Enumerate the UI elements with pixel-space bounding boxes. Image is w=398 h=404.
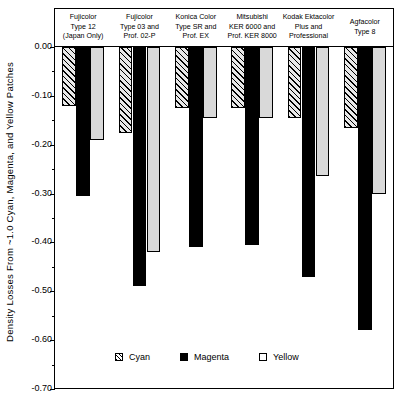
category-header-line: Prof. EX: [183, 32, 209, 41]
y-axis-major-tick: [50, 242, 55, 243]
bar-cyan-6: [344, 47, 358, 128]
bar-group-5: [280, 47, 336, 388]
bar-cyan-1: [62, 47, 76, 106]
bar-yellow-5: [316, 47, 330, 176]
bar-cyan-3: [175, 47, 189, 108]
category-header-line: KER 6000 and: [229, 23, 275, 32]
bar-cyan-5: [288, 47, 302, 118]
legend-item-yellow: Yellow: [259, 352, 299, 362]
bar-group-2: [111, 47, 167, 388]
y-axis-tick-labels: 0.00-0.10-0.20-0.30-0.40-0.50-0.60-0.70: [16, 0, 52, 404]
legend-swatch-magenta-icon: [180, 353, 188, 361]
y-axis-major-tick: [50, 145, 55, 146]
bar-group-4: [224, 47, 280, 388]
category-header-1: FujicolorType 12(Japan Only): [55, 9, 111, 46]
y-axis-major-tick: [50, 389, 55, 390]
y-axis-minor-tick: [52, 267, 55, 268]
category-header-line: Type SR and: [175, 23, 216, 32]
legend-item-magenta: Magenta: [180, 352, 229, 362]
category-header-2: FujicolorType 03 andProf. 02-P: [111, 9, 167, 46]
density-loss-bar-chart: Density Losses From ~1.0 Cyan, Magenta, …: [0, 0, 398, 404]
y-axis-minor-tick: [52, 169, 55, 170]
legend-label-magenta: Magenta: [194, 352, 229, 362]
y-axis-major-tick: [50, 291, 55, 292]
legend-label-yellow: Yellow: [273, 352, 299, 362]
legend-swatch-yellow-icon: [259, 353, 267, 361]
bar-yellow-3: [203, 47, 217, 118]
bar-magenta-2: [133, 47, 147, 286]
category-header-line: Fujicolor: [70, 13, 97, 22]
y-tick-label: -0.60: [16, 335, 52, 344]
category-header-line: Plus and: [295, 23, 323, 32]
y-tick-label: -0.10: [16, 90, 52, 99]
legend-swatch-cyan-icon: [115, 353, 123, 361]
y-tick-label: -0.40: [16, 237, 52, 246]
bar-magenta-3: [189, 47, 203, 247]
y-axis-minor-tick: [52, 218, 55, 219]
bar-yellow-1: [90, 47, 104, 140]
bar-magenta-1: [76, 47, 90, 196]
bar-yellow-2: [147, 47, 161, 252]
bar-magenta-6: [358, 47, 372, 330]
category-header-6: AgfacolorType 8: [337, 9, 393, 46]
bar-yellow-4: [259, 47, 273, 118]
bars-area: [55, 47, 393, 388]
y-tick-label: -0.50: [16, 286, 52, 295]
category-header-4: MitsubishiKER 6000 andProf. KER 8000: [224, 9, 280, 46]
y-axis-minor-tick: [52, 71, 55, 72]
chart-legend: CyanMagentaYellow: [115, 352, 299, 362]
category-header-line: Type 12: [71, 23, 96, 32]
category-header-line: Type 8: [354, 28, 375, 37]
y-tick-label: -0.30: [16, 188, 52, 197]
category-header-line: Fujicolor: [126, 13, 153, 22]
bar-group-1: [55, 47, 111, 388]
y-tick-label: 0.00: [16, 42, 52, 51]
plot-area: FujicolorType 12(Japan Only)FujicolorTyp…: [54, 8, 394, 389]
y-axis-minor-tick: [52, 365, 55, 366]
category-header-line: Prof. 02-P: [124, 32, 156, 41]
category-header-5: Kodak EktacolorPlus andProfessional: [280, 9, 336, 46]
category-header-3: Konica ColorType SR andProf. EX: [168, 9, 224, 46]
legend-label-cyan: Cyan: [129, 352, 150, 362]
y-axis-minor-tick: [52, 120, 55, 121]
y-tick-label: -0.20: [16, 139, 52, 148]
bar-magenta-4: [245, 47, 259, 245]
category-header-line: Agfacolor: [350, 18, 380, 27]
category-header-line: Konica Color: [176, 13, 217, 22]
bar-cyan-2: [119, 47, 133, 133]
category-header-line: Professional: [289, 32, 328, 41]
category-header-line: Type 03 and: [120, 23, 159, 32]
bar-yellow-6: [372, 47, 386, 194]
bar-group-6: [337, 47, 393, 388]
y-axis-title-text: Density Losses From ~1.0 Cyan, Magenta, …: [4, 62, 15, 342]
y-axis-major-tick: [50, 47, 55, 48]
bar-cyan-4: [231, 47, 245, 108]
legend-item-cyan: Cyan: [115, 352, 150, 362]
y-axis-major-tick: [50, 340, 55, 341]
y-tick-label: -0.70: [16, 384, 52, 393]
y-axis-major-tick: [50, 96, 55, 97]
bar-group-3: [168, 47, 224, 388]
category-header-line: Kodak Ektacolor: [283, 13, 335, 22]
category-header-line: Mitsubishi: [236, 13, 268, 22]
y-axis-minor-tick: [52, 316, 55, 317]
bar-magenta-5: [302, 47, 316, 277]
category-header-line: (Japan Only): [63, 32, 104, 41]
category-header-line: Prof. KER 8000: [228, 32, 277, 41]
y-axis-major-tick: [50, 194, 55, 195]
category-header-band: FujicolorType 12(Japan Only)FujicolorTyp…: [55, 9, 393, 47]
